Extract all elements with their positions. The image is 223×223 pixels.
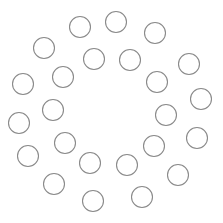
circle-ring-diagram (0, 0, 223, 223)
circle-20 (117, 155, 138, 176)
circle-1 (70, 17, 91, 38)
circle-5 (84, 49, 105, 70)
circle-19 (80, 153, 101, 174)
circle-13 (156, 105, 177, 126)
circle-24 (132, 187, 153, 208)
circle-2 (106, 12, 127, 33)
circle-15 (55, 133, 76, 154)
circle-12 (43, 100, 64, 121)
circle-22 (44, 174, 65, 195)
circle-16 (187, 128, 208, 149)
circle-3 (145, 23, 166, 44)
circle-18 (18, 146, 39, 167)
circle-7 (179, 54, 200, 75)
circle-10 (147, 72, 168, 93)
circle-4 (34, 38, 55, 59)
circle-21 (168, 165, 189, 186)
circle-6 (120, 50, 141, 71)
circle-17 (144, 136, 165, 157)
circle-14 (9, 113, 30, 134)
circle-8 (13, 74, 34, 95)
circle-9 (53, 67, 74, 88)
circle-11 (191, 89, 212, 110)
circle-23 (83, 191, 104, 212)
